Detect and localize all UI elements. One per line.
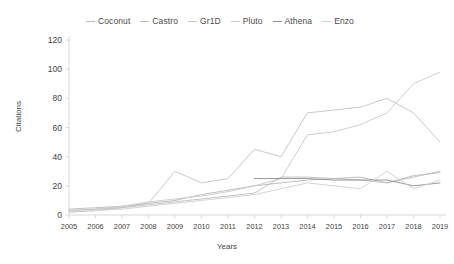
series-line-athena (255, 179, 441, 186)
x-axis-tick-2009: 2009 (167, 222, 183, 231)
x-axis-tick-2010: 2010 (193, 222, 209, 231)
x-axis-tick-2005: 2005 (61, 222, 77, 231)
x-axis-tick-2006: 2006 (87, 222, 103, 231)
x-axis-tick-2015: 2015 (326, 222, 342, 231)
x-axis-tick-2012: 2012 (246, 222, 262, 231)
x-axis-tick-2014: 2014 (299, 222, 315, 231)
citations-by-year-line-chart: CoconutCastroGr1DPlutoAthenaEnzo Citatio… (0, 0, 454, 264)
series-line-pluto (69, 72, 440, 211)
x-axis-tick-labels: 2005200620072008200920102011201220132014… (62, 222, 440, 236)
x-axis-tick-2007: 2007 (114, 222, 130, 231)
x-axis-tick-2017: 2017 (379, 222, 395, 231)
x-axis-tick-2018: 2018 (405, 222, 421, 231)
x-axis-title: Years (0, 242, 454, 251)
series-line-coconut (69, 171, 440, 209)
x-axis-tick-2011: 2011 (220, 222, 236, 231)
x-axis-tick-2019: 2019 (432, 222, 448, 231)
x-axis-tick-2016: 2016 (352, 222, 368, 231)
x-axis-tick-2013: 2013 (273, 222, 289, 231)
x-axis-tick-2008: 2008 (140, 222, 156, 231)
